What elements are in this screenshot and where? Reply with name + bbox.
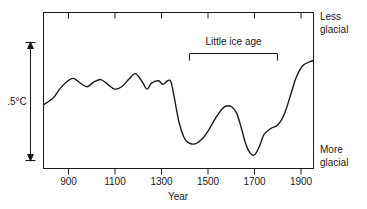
x-tick-label-1700: 1700	[239, 176, 271, 188]
vertical-scale-label: .5°C	[5, 96, 29, 108]
more-glacial-label-line1: More	[320, 144, 343, 157]
x-tick-label-1900: 1900	[285, 176, 317, 188]
x-tick-label-1300: 1300	[146, 176, 178, 188]
little-ice-age-label: Little ice age	[189, 36, 278, 48]
less-glacial-label-line1: Less	[320, 11, 341, 24]
less-glacial-label-line2: glacial	[320, 24, 348, 37]
x-tick-label-1500: 1500	[192, 176, 224, 188]
more-glacial-label-line2: glacial	[320, 157, 348, 170]
glacial-history-chart: 900 1100 1300 1500 1700 1900 Year .5°C L…	[0, 0, 367, 209]
x-axis-title: Year	[148, 191, 208, 203]
x-tick-label-900: 900	[55, 176, 82, 188]
bottom-axis-ticks	[69, 169, 302, 175]
x-tick-label-1100: 1100	[99, 176, 131, 188]
